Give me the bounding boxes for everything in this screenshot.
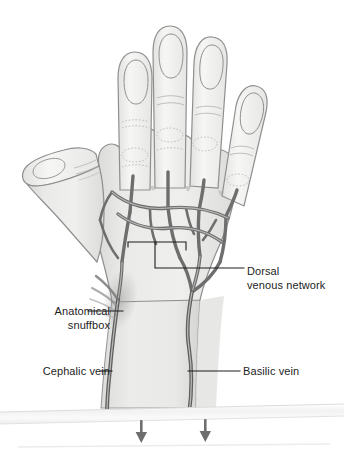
label-dorsal-venous-network: Dorsal venous network [247,265,325,292]
flow-arrows [136,419,211,443]
bottom-rule [18,444,330,447]
basilic-flow-arrow [200,419,211,442]
fingers [118,26,267,206]
index-finger [118,52,152,190]
thumb [23,148,105,262]
anatomy-illustration [0,0,344,452]
hand-vein-anatomy-figure: Dorsal venous network Anatomical snuffbo… [0,0,344,452]
little-finger [222,86,267,206]
label-cephalic-vein: Cephalic vein [8,365,110,379]
cephalic-flow-arrow [136,420,147,443]
label-anatomical-snuffbox: Anatomical snuffbox [8,305,110,332]
middle-finger [153,26,187,188]
label-basilic-vein: Basilic vein [243,365,299,379]
